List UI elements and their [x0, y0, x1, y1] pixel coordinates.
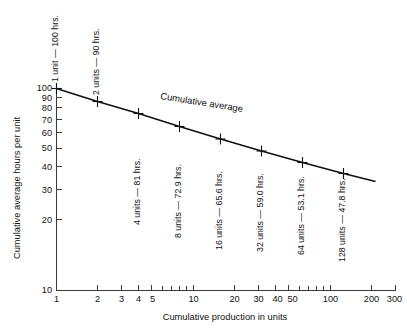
annotation-128-units: 128 units — 47.8 hrs.	[337, 178, 347, 262]
annotation-2-units: 2 units — 90 hrs.	[91, 29, 101, 96]
y-tick-label-20: 20	[42, 215, 52, 225]
chart-svg: 100 90 80 70 60 50 40 30 20 10	[0, 0, 407, 333]
x-tick-label-40: 40	[272, 294, 282, 304]
y-tick-label-50: 50	[42, 143, 52, 153]
x-axis-title: Cumulative production in units	[163, 312, 288, 322]
y-axis-title: Cumulative average hours per unit	[12, 117, 22, 260]
x-tick-label-50: 50	[287, 294, 297, 304]
x-tick-label-2: 2	[95, 294, 100, 304]
annotation-1-unit: 1 unit — 100 hrs.	[50, 15, 60, 82]
x-tick-label-3: 3	[119, 294, 124, 304]
y-tick-label-10: 10	[42, 285, 52, 295]
x-tick-label-10: 10	[188, 294, 198, 304]
x-tick-label-300: 300	[387, 294, 402, 304]
y-tick-label-90: 90	[42, 93, 52, 103]
annotation-64-units: 64 units — 53.1 hrs.	[296, 176, 306, 255]
x-tick-label-200: 200	[364, 294, 379, 304]
annotation-32-units: 32 units — 59.0 hrs.	[255, 173, 265, 252]
annotation-16-units: 16 units — 65.6 hrs.	[214, 171, 224, 250]
y-tick-label-80: 80	[42, 103, 52, 113]
y-tick-label-40: 40	[42, 162, 52, 172]
annotation-8-units: 8 units — 72.9 hrs.	[173, 164, 183, 238]
x-tick-label-5: 5	[150, 294, 155, 304]
x-tick-label-4: 4	[136, 294, 141, 304]
x-tick-label-1: 1	[54, 294, 59, 304]
y-tick-label-60: 60	[42, 128, 52, 138]
y-tick-label-70: 70	[42, 115, 52, 125]
learning-curve-chart: 100 90 80 70 60 50 40 30 20 10	[0, 0, 407, 333]
annotation-4-units: 4 units — 81 hrs.	[132, 159, 142, 226]
y-tick-label-30: 30	[42, 185, 52, 195]
x-tick-label-100: 100	[323, 294, 338, 304]
x-tick-label-30: 30	[253, 294, 263, 304]
x-tick-label-20: 20	[229, 294, 239, 304]
